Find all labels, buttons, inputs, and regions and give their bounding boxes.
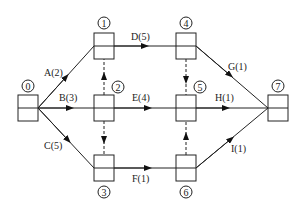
label-f: F(1) xyxy=(132,173,149,185)
network-diagram: 0 1 2 3 4 5 6 7 A(2) B(3) C(5) D(5) E(4)… xyxy=(0,0,301,209)
label-i: I(1) xyxy=(231,143,246,155)
node-5 xyxy=(176,95,196,121)
node-2-number: 2 xyxy=(116,82,121,93)
node-3 xyxy=(94,155,114,181)
node-0-number: 0 xyxy=(26,81,31,92)
node-1-number: 1 xyxy=(102,18,107,29)
label-d: D(5) xyxy=(131,31,150,43)
node-6 xyxy=(176,155,196,181)
node-5-number: 5 xyxy=(198,82,203,93)
node-1 xyxy=(94,33,114,59)
node-6-number: 6 xyxy=(184,187,189,198)
node-3-number: 3 xyxy=(102,187,107,198)
label-c: C(5) xyxy=(44,140,62,152)
node-2 xyxy=(94,95,114,121)
node-4-number: 4 xyxy=(184,18,189,29)
label-g: G(1) xyxy=(228,61,247,73)
label-a: A(2) xyxy=(44,67,63,79)
label-e: E(4) xyxy=(132,92,150,104)
node-7 xyxy=(268,95,288,121)
node-7-number: 7 xyxy=(276,81,281,92)
node-4 xyxy=(176,33,196,59)
label-h: H(1) xyxy=(215,92,234,104)
label-b: B(3) xyxy=(59,92,77,104)
node-0 xyxy=(18,95,38,121)
